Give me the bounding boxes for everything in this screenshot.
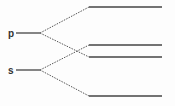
connector-p-lower <box>40 33 89 57</box>
diagram-svg: p s <box>0 0 175 106</box>
connector-s-bottom <box>40 70 89 96</box>
connector-p-top <box>40 7 89 33</box>
connector-s-upper <box>40 45 89 70</box>
energy-level-diagram: p s <box>0 0 175 106</box>
label-p: p <box>8 28 14 39</box>
label-s: s <box>8 65 14 76</box>
